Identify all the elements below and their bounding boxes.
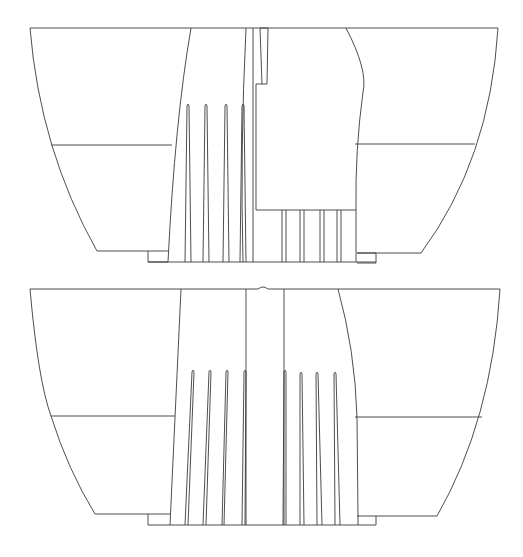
left-flute-3 xyxy=(222,370,228,525)
right-flute-2 xyxy=(300,372,304,525)
right-shaft-curve xyxy=(338,289,358,525)
left-shaft-line xyxy=(170,289,181,525)
lower-flute-1 xyxy=(282,210,286,262)
right-base-step xyxy=(357,253,376,263)
flute-2 xyxy=(203,104,209,262)
right-hull-curve xyxy=(421,28,498,253)
cutaway-outline xyxy=(256,84,356,210)
left-base-step xyxy=(148,251,168,262)
right-flute-1 xyxy=(283,370,286,525)
lower-flute-2 xyxy=(300,210,304,262)
right-flute-3 xyxy=(316,372,322,525)
left-hull-curve xyxy=(30,28,97,251)
left-flute-4 xyxy=(242,370,246,525)
keyway-slot xyxy=(260,28,268,84)
bottom-view-drawing xyxy=(30,287,500,525)
left-hull-curve xyxy=(30,289,95,514)
lower-flute-3 xyxy=(320,210,324,262)
right-hull-curve xyxy=(437,289,500,516)
flute-3 xyxy=(223,104,229,262)
right-shaft-curve xyxy=(346,28,364,262)
top-notch xyxy=(258,287,268,289)
left-flute-2 xyxy=(203,370,211,525)
flute-1 xyxy=(185,104,191,262)
right-flute-4 xyxy=(334,372,340,525)
left-flute-1 xyxy=(185,370,194,525)
technical-drawing-canvas xyxy=(0,0,523,557)
top-view-drawing xyxy=(30,28,498,263)
lower-flute-4 xyxy=(337,210,341,262)
